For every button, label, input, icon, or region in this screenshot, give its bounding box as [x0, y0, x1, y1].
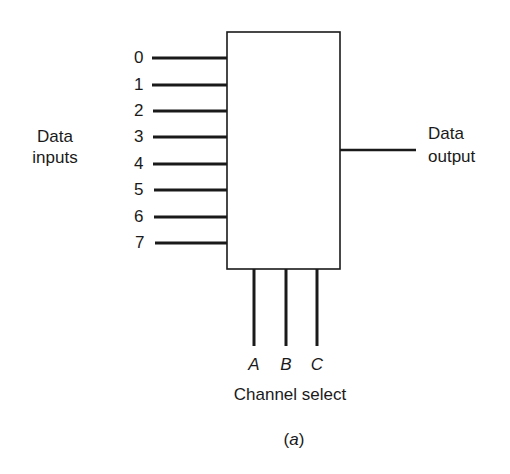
data-output-label-line2: output	[428, 147, 475, 167]
multiplexer-block	[227, 32, 340, 269]
input-label-4: 4	[134, 154, 143, 174]
select-label-c: C	[307, 355, 327, 375]
data-input-leads	[152, 58, 227, 243]
data-inputs-label-line1: Data	[15, 127, 95, 147]
input-label-5: 5	[134, 180, 143, 200]
input-label-7: 7	[135, 233, 144, 253]
select-label-a: A	[244, 355, 264, 375]
data-output-label-line1: Data	[428, 124, 464, 144]
select-leads	[254, 269, 317, 346]
input-label-1: 1	[134, 75, 143, 95]
input-label-3: 3	[134, 127, 143, 147]
caption-letter: a	[289, 430, 298, 449]
input-label-6: 6	[134, 207, 143, 227]
input-label-2: 2	[134, 101, 143, 121]
input-label-0: 0	[134, 48, 143, 68]
select-label-b: B	[276, 355, 296, 375]
channel-select-label: Channel select	[210, 385, 370, 405]
data-inputs-label-line2: inputs	[15, 148, 95, 168]
figure-caption: (a)	[264, 430, 324, 450]
